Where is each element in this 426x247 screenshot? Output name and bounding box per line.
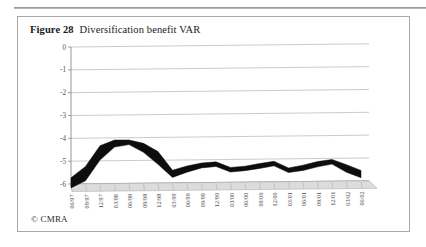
x-tick-label: 09/97 (83, 194, 90, 208)
floor-slab (71, 181, 377, 192)
y-tick-label: -3 (60, 112, 66, 120)
x-tick-label: 03/98 (112, 194, 119, 208)
series-line-diversification-benefit-var (71, 140, 361, 188)
gridline (71, 67, 369, 70)
x-tick-label: 09/01 (315, 192, 322, 206)
x-tick-label: 12/00 (271, 192, 278, 206)
x-tick-label: 12/01 (329, 192, 336, 206)
x-tick-label: 06/98 (126, 194, 133, 208)
y-tick-label: -5 (60, 158, 66, 166)
series-band (71, 140, 361, 188)
x-tick-label: 06/99 (184, 193, 191, 207)
page-top-rule (14, 7, 426, 9)
gridline (71, 89, 369, 92)
gridline (71, 112, 369, 115)
x-tick-label: 03/00 (228, 193, 235, 207)
x-tick-label: 06/00 (242, 193, 249, 207)
x-tick-label: 03/99 (170, 193, 177, 207)
y-tick-label: 0 (62, 44, 66, 52)
gridline (71, 135, 369, 138)
diversification-benefit-var-chart: 0-1-2-3-4-5-606/9709/9712/9703/9806/9809… (18, 17, 411, 233)
x-tick-label: 09/98 (141, 194, 148, 208)
copyright-credit: © CMRA (31, 214, 68, 224)
chart-plot-area: 0-1-2-3-4-5-606/9709/9712/9703/9806/9809… (18, 17, 411, 233)
chart-floor-3d (71, 181, 377, 192)
x-tick-label: 06/02 (358, 191, 365, 205)
x-tick-label: 09/99 (199, 193, 206, 207)
x-tick-label: 03/01 (286, 192, 293, 206)
figure-frame: Figure 28Diversification benefit VAR 0-1… (17, 16, 410, 232)
gridline (71, 44, 369, 47)
y-tick-label: -6 (60, 181, 66, 189)
y-tick-label: -1 (60, 66, 66, 74)
x-tick-label: 06/97 (68, 195, 75, 209)
x-tick-label: 12/99 (213, 193, 220, 207)
x-tick-label: 06/01 (300, 192, 307, 206)
x-tick-label: 09/00 (257, 192, 264, 206)
y-tick-label: -2 (60, 89, 66, 97)
x-tick-label: 12/97 (97, 194, 104, 208)
x-tick-label: 12/98 (155, 194, 162, 208)
y-tick-label: -4 (60, 135, 66, 143)
x-tick-label: 03/02 (344, 192, 351, 206)
